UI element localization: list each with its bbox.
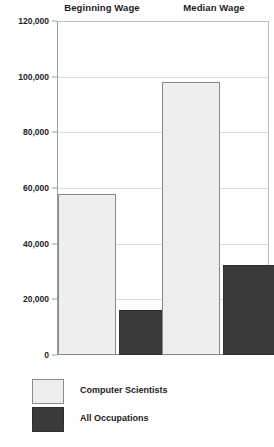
legend-swatch bbox=[32, 407, 64, 432]
bar-series-layer bbox=[58, 21, 268, 355]
y-axis-tick-label: 20,000 bbox=[23, 294, 49, 304]
legend-item-label: All Occupations bbox=[80, 413, 149, 423]
legend-item-label: Computer Scientists bbox=[80, 385, 168, 395]
y-axis-tick-label: 100,000 bbox=[18, 72, 49, 82]
y-axis-tick-label: 40,000 bbox=[23, 239, 49, 249]
legend-item: All Occupations bbox=[32, 405, 262, 433]
bar bbox=[223, 265, 274, 355]
legend-swatch bbox=[32, 379, 64, 404]
y-axis-tick-label: 0 bbox=[44, 350, 49, 360]
y-axis-tick-label: 120,000 bbox=[18, 16, 49, 26]
bar bbox=[162, 82, 220, 355]
legend: Computer ScientistsAll Occupations bbox=[32, 377, 262, 433]
group-header-beginning-wage: Beginning Wage bbox=[46, 2, 158, 13]
bar bbox=[58, 194, 116, 355]
group-header-median-wage: Median Wage bbox=[159, 2, 269, 13]
legend-item: Computer Scientists bbox=[32, 377, 262, 405]
y-axis-tick-label: 60,000 bbox=[23, 183, 49, 193]
y-axis-tick-label: 80,000 bbox=[23, 127, 49, 137]
y-axis: 120,000100,00080,00060,00040,00020,0000 bbox=[0, 21, 57, 355]
